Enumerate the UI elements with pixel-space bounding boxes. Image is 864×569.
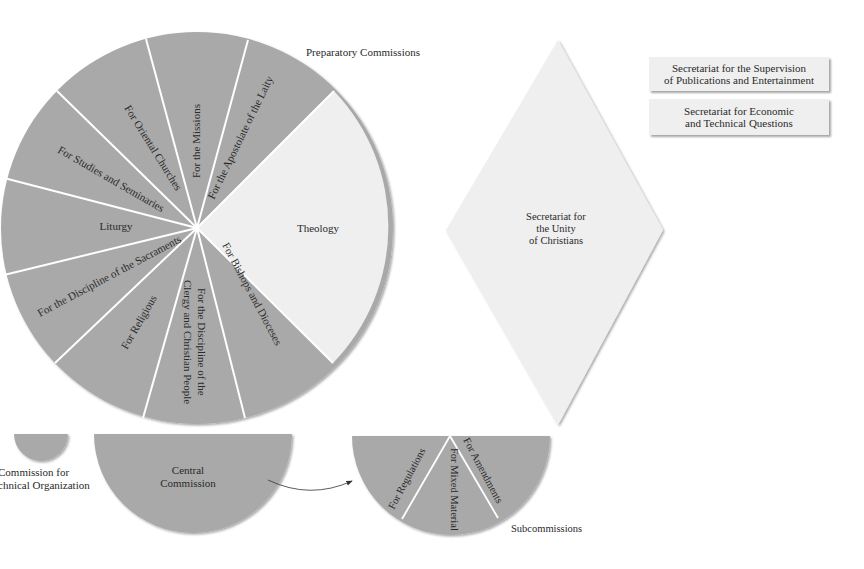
technical-line2: chnical Organization — [0, 479, 90, 491]
publications-line2: of Publications and Entertainment — [649, 74, 829, 86]
label-clergy-line1: For the Discipline of the — [196, 288, 208, 396]
arrow-to-subcommissions — [268, 480, 352, 490]
central-line2: Commission — [160, 477, 216, 489]
secretariat-publications-box[interactable]: Secretariat for the Supervision of Publi… — [649, 57, 829, 91]
technical-line1: Commission for — [0, 466, 70, 478]
publications-line1: Secretariat for the Supervision — [649, 62, 829, 74]
central-line1: Central — [172, 464, 204, 476]
unity-line1: Secretariat for — [526, 211, 586, 222]
label-missions: For the Missions — [190, 104, 202, 178]
label-clergy-line2: Clergy and Christian People — [182, 280, 194, 404]
economic-line2: and Technical Questions — [649, 117, 829, 129]
preparatory-commissions-title: Preparatory Commissions — [306, 46, 420, 58]
economic-line1: Secretariat for Economic — [649, 105, 829, 117]
subcommissions-title: Subcommissions — [511, 523, 582, 534]
secretariat-economic-box[interactable]: Secretariat for Economic and Technical Q… — [649, 99, 829, 135]
label-mixed-material: For Mixed Material — [449, 448, 460, 531]
unity-line3: of Christians — [529, 235, 583, 246]
label-liturgy: Liturgy — [100, 220, 133, 232]
label-theology: Theology — [297, 222, 340, 234]
technical-organization-semicircle[interactable] — [14, 434, 68, 461]
unity-line2: the Unity — [536, 223, 576, 234]
